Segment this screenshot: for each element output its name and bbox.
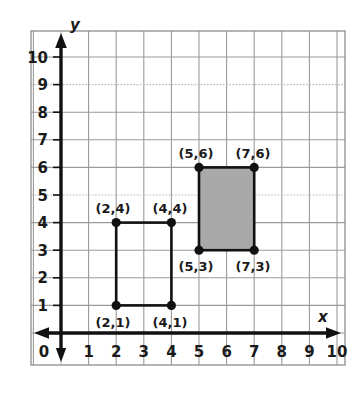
y-tick-label-9: 9 <box>38 76 48 94</box>
shaded-rectangle-shape[interactable] <box>194 163 258 255</box>
x-tick-label-2: 2 <box>111 343 121 361</box>
vertex-point-4-4[interactable] <box>167 218 176 227</box>
x-tick-label-7: 7 <box>249 343 259 361</box>
vertex-point-5-6[interactable] <box>194 163 203 172</box>
y-tick-label-6: 6 <box>38 159 48 177</box>
x-tick-label-8: 8 <box>277 343 287 361</box>
point-label-4-1: (4,1) <box>153 315 188 330</box>
vertex-point-2-1[interactable] <box>112 301 121 310</box>
x-tick-label-9: 9 <box>304 343 314 361</box>
y-tick-label-5: 5 <box>38 187 48 205</box>
vertex-point-7-3[interactable] <box>250 246 259 255</box>
coordinate-grid-figure: 10 9 8 7 6 5 4 3 2 1 0 1 2 3 4 5 6 7 8 9… <box>0 0 360 396</box>
vertex-point-5-3[interactable] <box>194 246 203 255</box>
x-axis-name-label: x <box>317 308 329 326</box>
x-tick-label-0: 0 <box>39 343 49 361</box>
point-label-4-4: (4,4) <box>153 201 188 216</box>
x-tick-label-10: 10 <box>327 343 348 361</box>
y-tick-label-3: 3 <box>38 242 48 260</box>
point-label-2-1: (2,1) <box>96 315 131 330</box>
point-label-7-3: (7,3) <box>236 259 271 274</box>
y-tick-label-7: 7 <box>38 131 48 149</box>
x-tick-label-3: 3 <box>139 343 149 361</box>
x-tick-label-1: 1 <box>83 343 93 361</box>
figure-background <box>0 0 360 396</box>
y-tick-label-2: 2 <box>38 269 48 287</box>
point-label-5-6: (5,6) <box>179 146 214 161</box>
point-label-7-6: (7,6) <box>236 146 271 161</box>
shaded-rectangle-outline[interactable] <box>199 167 254 250</box>
point-label-2-4: (2,4) <box>96 201 131 216</box>
point-label-5-3: (5,3) <box>179 259 214 274</box>
x-tick-label-5: 5 <box>194 343 204 361</box>
vertex-point-7-6[interactable] <box>250 163 259 172</box>
y-tick-label-4: 4 <box>38 214 48 232</box>
y-axis-name-label: y <box>70 16 81 34</box>
vertex-point-2-4[interactable] <box>112 218 121 227</box>
y-tick-label-1: 1 <box>38 297 48 315</box>
y-tick-label-8: 8 <box>38 104 48 122</box>
vertex-point-4-1[interactable] <box>167 301 176 310</box>
x-tick-label-6: 6 <box>221 343 231 361</box>
y-tick-label-10: 10 <box>27 49 48 67</box>
coordinate-plane: 10 9 8 7 6 5 4 3 2 1 0 1 2 3 4 5 6 7 8 9… <box>0 0 360 396</box>
x-tick-label-4: 4 <box>166 343 176 361</box>
